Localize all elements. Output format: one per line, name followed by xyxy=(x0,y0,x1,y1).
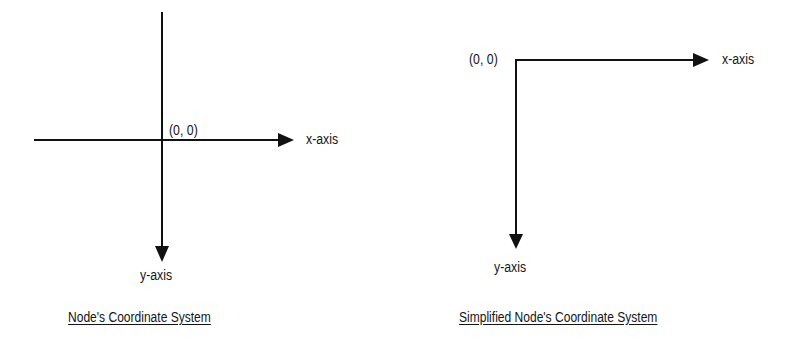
origin-label: (0, 0) xyxy=(469,51,498,67)
diagram-canvas: (0, 0) x-axis y-axis Node's Coordinate S… xyxy=(0,0,790,349)
x-axis-label: x-axis xyxy=(722,51,754,67)
simplified-node-coordinate-system-diagram: (0, 0) x-axis y-axis Simplified Node's C… xyxy=(0,0,790,349)
x-axis-arrowhead-icon xyxy=(693,53,709,67)
y-axis-arrowhead-icon xyxy=(509,234,523,249)
y-axis-label: y-axis xyxy=(494,259,526,275)
simplified-axes-graphic xyxy=(0,0,790,349)
diagram-title: Simplified Node's Coordinate System xyxy=(459,309,657,325)
